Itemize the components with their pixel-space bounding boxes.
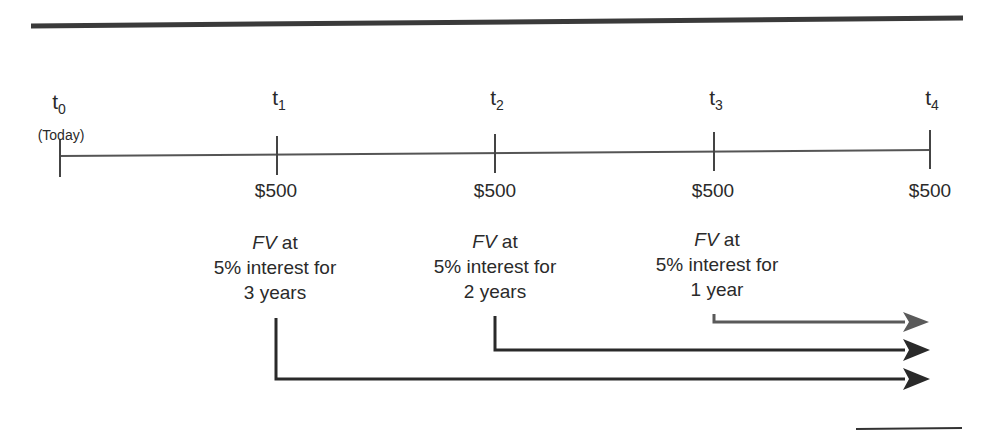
today-label: (Today) bbox=[38, 127, 85, 143]
tick-label-t1: t1 bbox=[272, 86, 286, 113]
fv-annotation-3-years: FV at 5% interest for 3 years bbox=[214, 230, 337, 305]
amount-t4: $500 bbox=[909, 180, 951, 202]
bottom-rule bbox=[856, 428, 962, 429]
tick-label-t4: t4 bbox=[925, 86, 939, 113]
tick-label-t2: t2 bbox=[490, 86, 504, 113]
amount-t2: $500 bbox=[474, 180, 516, 202]
top-rule bbox=[31, 18, 963, 26]
fv-annotation-2-years: FV at 5% interest for 2 years bbox=[434, 229, 557, 304]
fv-annotation-1-year: FV at 5% interest for 1 year bbox=[656, 227, 779, 302]
tick-label-t3: t3 bbox=[709, 86, 723, 113]
tick-label-t0: t0 bbox=[52, 90, 66, 117]
amount-t3: $500 bbox=[692, 180, 734, 202]
arrow-t1-to-t4 bbox=[276, 318, 930, 390]
timeline-diagram-graphics bbox=[0, 0, 981, 438]
amount-t1: $500 bbox=[255, 180, 297, 202]
arrow-t3-to-t4 bbox=[714, 312, 929, 332]
